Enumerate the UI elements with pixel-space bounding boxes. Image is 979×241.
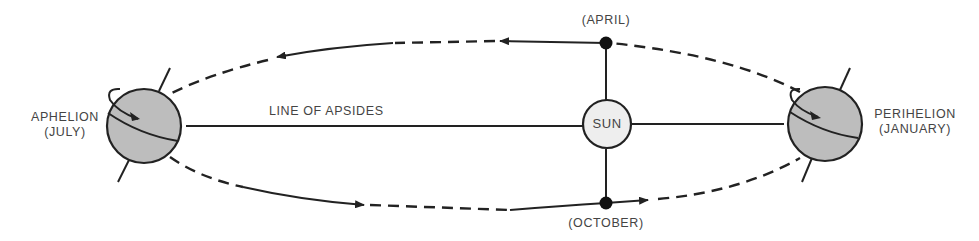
perihelion-axis-top [840,68,850,90]
october-label: (OCTOBER) [556,216,656,231]
perihelion-label: PERIHELION (JANUARY) [867,107,963,137]
aphelion-label: APHELION (JULY) [22,110,108,140]
perihelion-earth-globe [788,68,862,182]
orbit-top-right-segment [610,43,800,92]
orbit-bottom-solid-2 [510,203,606,210]
aphelion-axis-bottom [118,160,129,182]
april-dot [600,37,613,50]
aphelion-month-text: (JULY) [22,125,108,140]
orbit-top-dashed-mid [395,41,495,43]
orbit-bottom-left-segment [170,157,243,187]
orbit-top-solid-2 [277,43,393,57]
line-of-apsides-label: LINE OF APSIDES [269,104,384,119]
october-dot [600,197,613,210]
orbit-top-left-segment [172,60,268,93]
aphelion-text: APHELION [22,110,108,125]
orbit-top-solid-1 [500,41,606,43]
orbit-diagram: APHELION (JULY) PERIHELION (JANUARY) LIN… [0,0,979,241]
aphelion-earth-globe [107,68,181,182]
orbit-bottom-dashed-mid [370,205,510,210]
aphelion-axis-top [159,68,170,91]
perihelion-axis-bottom [802,158,812,182]
perihelion-month-text: (JANUARY) [867,122,963,137]
orbit-bottom-solid-1 [243,187,364,205]
orbit-bottom-right-segment [658,158,800,199]
april-label: (APRIL) [566,13,646,28]
sun-label: SUN [583,116,631,131]
perihelion-text: PERIHELION [867,107,963,122]
